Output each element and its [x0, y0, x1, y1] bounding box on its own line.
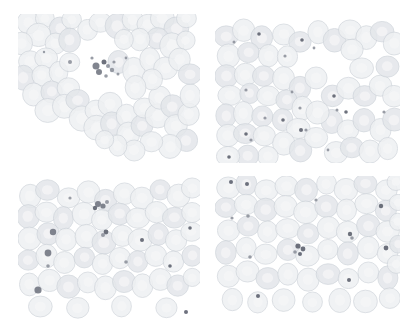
- micrograph-panel-top-right[interactable]: [215, 14, 400, 163]
- micrograph-panel-bottom-left[interactable]: [18, 176, 200, 321]
- micrograph-panel-top-left[interactable]: [18, 14, 200, 163]
- micrograph-panel-bottom-right[interactable]: [215, 176, 400, 321]
- micrograph-figure: Four light-microscopy panels of stained …: [0, 0, 419, 335]
